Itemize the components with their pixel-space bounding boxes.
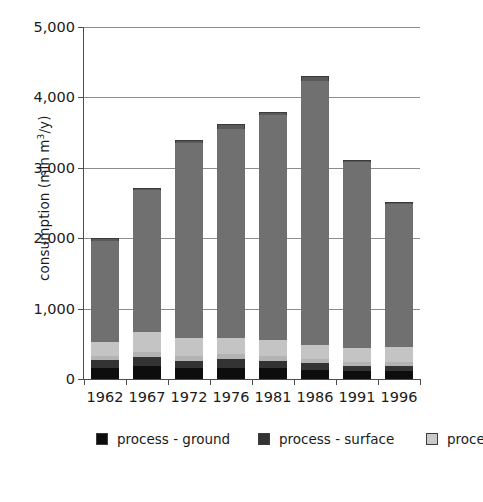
legend-label: process - pipe	[447, 431, 483, 447]
bar-1991	[343, 160, 371, 379]
bar-segment	[175, 338, 203, 356]
y-tick-label: 2,000	[33, 230, 75, 246]
bar-segment	[343, 371, 371, 379]
gridline	[84, 97, 420, 98]
x-tick-label: 1991	[339, 389, 376, 405]
legend-swatch-icon	[426, 433, 438, 445]
bar-segment	[385, 204, 413, 346]
bar-segment	[343, 348, 371, 362]
bar-1967	[133, 188, 161, 379]
y-axis-title: consumption (mln m3/y)	[36, 68, 53, 328]
x-tick-label: 1962	[87, 389, 124, 405]
bar-segment	[385, 347, 413, 362]
y-tick-label: 0	[66, 371, 75, 387]
bar-segment	[175, 143, 203, 339]
legend-swatch-icon	[96, 433, 108, 445]
bar-segment	[175, 368, 203, 379]
bar-1972	[175, 140, 203, 379]
y-tick-mark	[78, 309, 84, 310]
bar-segment	[91, 241, 119, 342]
y-tick-label: 1,000	[33, 301, 75, 317]
x-tick-mark	[294, 379, 295, 385]
y-tick-label: 3,000	[33, 160, 75, 176]
plot-area: 01,0002,0003,0004,0005,000 1962196719721…	[84, 27, 420, 379]
bar-segment	[259, 340, 287, 356]
bar-segment	[259, 115, 287, 340]
bar-segment	[133, 366, 161, 379]
bar-segment	[133, 190, 161, 332]
bar-segment	[385, 371, 413, 379]
x-tick-mark	[210, 379, 211, 385]
bar-segment	[133, 332, 161, 352]
bar-segment	[217, 338, 245, 355]
bar-segment	[343, 162, 371, 348]
y-tick-label: 5,000	[33, 19, 75, 35]
legend-item: process - pipe	[426, 431, 483, 447]
legend-label: process - surface	[279, 431, 394, 447]
x-tick-mark	[126, 379, 127, 385]
y-tick-mark	[78, 97, 84, 98]
y-axis-line	[83, 27, 84, 379]
bar-segment	[259, 361, 287, 369]
bar-segment	[217, 359, 245, 367]
x-tick-mark	[336, 379, 337, 385]
y-tick-mark	[78, 168, 84, 169]
legend-label: process - ground	[117, 431, 230, 447]
chart-legend: process - groundprocess - surfaceprocess…	[96, 428, 426, 450]
bar-1986	[301, 76, 329, 379]
stacked-bar-chart-figure: consumption (mln m3/y) 01,0002,0003,0004…	[0, 0, 483, 502]
bar-segment	[301, 345, 329, 358]
x-tick-label: 1972	[171, 389, 208, 405]
bar-segment	[301, 81, 329, 346]
bar-segment	[217, 129, 245, 337]
y-tick-mark	[78, 238, 84, 239]
bar-segment	[175, 361, 203, 368]
x-tick-mark	[168, 379, 169, 385]
bar-1996	[385, 202, 413, 379]
x-tick-mark	[378, 379, 379, 385]
bar-segment	[301, 363, 329, 370]
x-tick-label: 1981	[255, 389, 292, 405]
legend-item: process - surface	[258, 431, 426, 447]
legend-item: process - ground	[96, 431, 258, 447]
x-tick-label: 1986	[297, 389, 334, 405]
bar-segment	[91, 342, 119, 355]
x-tick-label: 1967	[129, 389, 166, 405]
x-tick-mark	[84, 379, 85, 385]
y-tick-label: 4,000	[33, 89, 75, 105]
bar-1981	[259, 112, 287, 379]
bar-segment	[259, 368, 287, 379]
gridline	[84, 27, 420, 28]
y-tick-mark	[78, 27, 84, 28]
bar-segment	[133, 357, 161, 366]
bar-1976	[217, 124, 245, 379]
x-tick-mark	[420, 379, 421, 385]
bar-segment	[91, 368, 119, 379]
x-tick-label: 1976	[213, 389, 250, 405]
bar-1962	[91, 238, 119, 379]
legend-swatch-icon	[258, 433, 270, 445]
x-tick-mark	[252, 379, 253, 385]
x-tick-label: 1996	[381, 389, 418, 405]
bar-segment	[301, 370, 329, 379]
bar-segment	[217, 368, 245, 379]
bar-segment	[91, 360, 119, 368]
